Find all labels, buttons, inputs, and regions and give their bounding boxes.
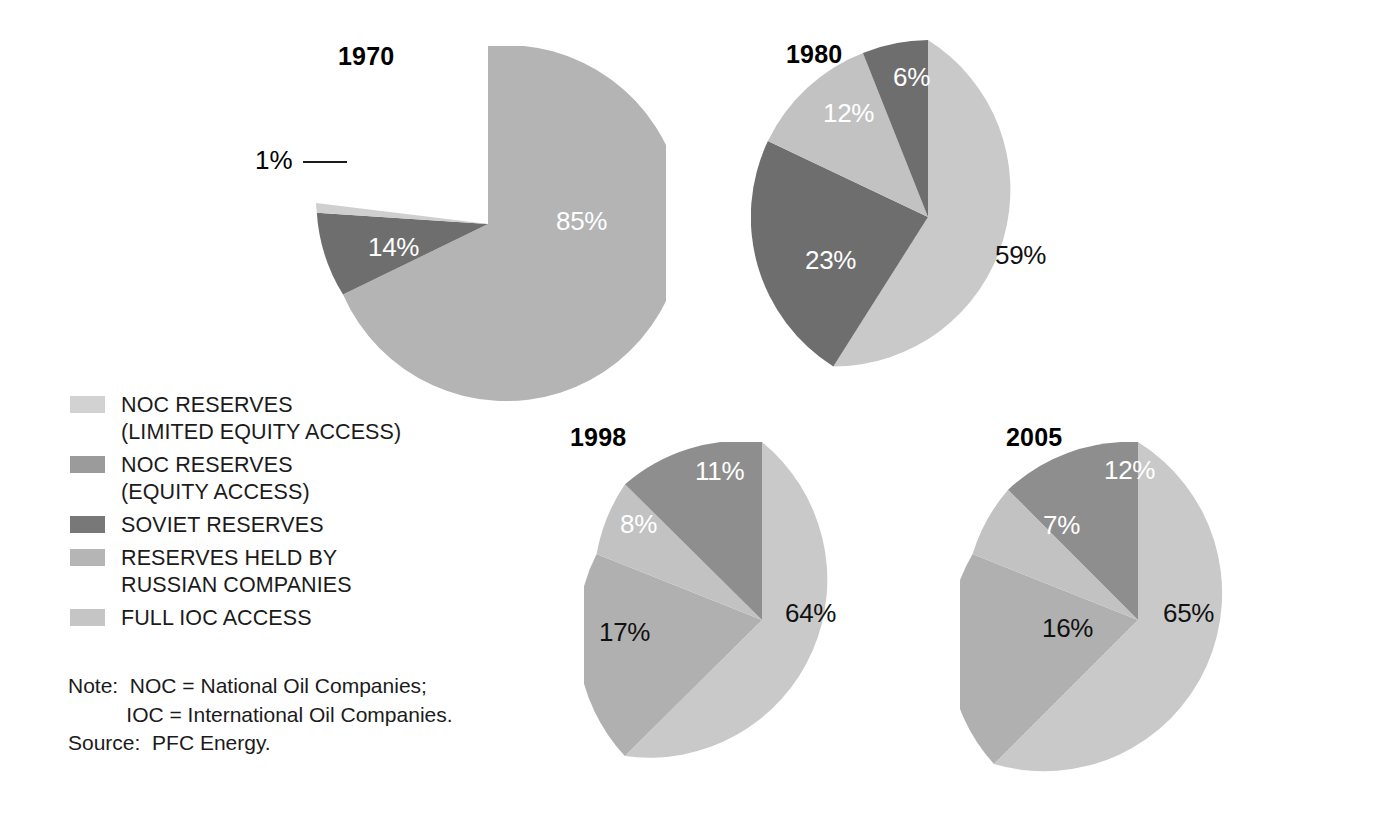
slice-label-2005-16: 16% bbox=[1042, 613, 1093, 644]
slice-label-2005-12: 12% bbox=[1104, 455, 1155, 486]
slice-label-1980-23: 23% bbox=[805, 245, 856, 276]
pie-chart-2005 bbox=[960, 442, 1316, 798]
legend-label: SOVIET RESERVES bbox=[121, 512, 324, 539]
legend-item-noc-limited-equity-access[interactable]: NOC RESERVES (LIMITED EQUITY ACCESS) bbox=[70, 392, 470, 446]
legend-item-full-ioc-access[interactable]: FULL IOC ACCESS bbox=[70, 605, 470, 632]
slice-label-2005-7: 7% bbox=[1043, 510, 1080, 541]
pie-title-1998: 1998 bbox=[570, 423, 626, 452]
legend-item-russian-companies[interactable]: RESERVES HELD BY RUSSIAN COMPANIES bbox=[70, 545, 470, 599]
legend-label: RESERVES HELD BY RUSSIAN COMPANIES bbox=[121, 545, 352, 599]
pie-chart-1970 bbox=[310, 46, 666, 402]
slice-label-1980-6: 6% bbox=[893, 62, 930, 93]
pie-title-1980: 1980 bbox=[786, 40, 842, 69]
slice-label-2005-65: 65% bbox=[1163, 598, 1214, 629]
legend-item-noc-equity-access[interactable]: NOC RESERVES (EQUITY ACCESS) bbox=[70, 452, 470, 506]
slice-label-1970-85: 85% bbox=[556, 206, 607, 237]
legend: NOC RESERVES (LIMITED EQUITY ACCESS) NOC… bbox=[70, 392, 470, 638]
legend-label: NOC RESERVES (LIMITED EQUITY ACCESS) bbox=[121, 392, 401, 446]
pie-2005-svg bbox=[960, 442, 1316, 798]
legend-swatch-icon-soviet bbox=[70, 516, 105, 533]
pie-title-2005: 2005 bbox=[1006, 423, 1062, 452]
pie-1980-svg bbox=[751, 40, 1105, 394]
legend-label: FULL IOC ACCESS bbox=[121, 605, 312, 632]
callout-leader-line-1970 bbox=[303, 161, 347, 163]
pie-title-1970: 1970 bbox=[338, 42, 394, 71]
chart-footnotes: Note: NOC = National Oil Companies; IOC … bbox=[68, 672, 453, 758]
slice-label-1980-59: 59% bbox=[995, 240, 1046, 271]
source-line: Source: PFC Energy. bbox=[68, 729, 453, 758]
note-line-ioc: IOC = International Oil Companies. bbox=[68, 701, 453, 730]
legend-label: NOC RESERVES (EQUITY ACCESS) bbox=[121, 452, 310, 506]
slice-label-1998-17: 17% bbox=[599, 617, 650, 648]
pie-1970-svg bbox=[310, 46, 666, 402]
chart-canvas: 1970 85% 14% 1% 1980 59% 23% 12% 6% bbox=[0, 0, 1373, 826]
legend-item-soviet-reserves[interactable]: SOVIET RESERVES bbox=[70, 512, 470, 539]
slice-label-1980-12: 12% bbox=[823, 98, 874, 129]
note-line-noc: Note: NOC = National Oil Companies; bbox=[68, 672, 453, 701]
legend-swatch-icon-noc-equity bbox=[70, 456, 105, 473]
slice-label-1970-14: 14% bbox=[368, 232, 419, 263]
legend-swatch-icon-noc-limited bbox=[70, 396, 105, 413]
slice-label-1998-64: 64% bbox=[785, 598, 836, 629]
slice-label-1998-11: 11% bbox=[695, 456, 744, 487]
slice-label-1970-1: 1% bbox=[255, 145, 293, 176]
pie-chart-1980 bbox=[751, 40, 1105, 394]
legend-swatch-icon-russian bbox=[70, 549, 105, 566]
slice-label-1998-8: 8% bbox=[620, 509, 657, 540]
legend-swatch-icon-full-ioc bbox=[70, 609, 105, 626]
